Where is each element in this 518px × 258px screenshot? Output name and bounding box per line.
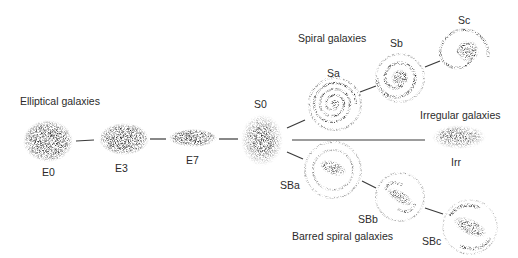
label-irr: Irr — [451, 156, 461, 168]
label-sba: SBa — [280, 179, 300, 191]
hubble-tuning-fork-diagram: Elliptical galaxies Spiral galaxies Irre… — [0, 0, 518, 258]
edge-sbb-sbc — [425, 208, 443, 214]
label-sc: Sc — [458, 14, 470, 26]
galaxy-sbb — [376, 173, 424, 221]
edge-s0-sba — [287, 152, 303, 159]
group-label-elliptical: Elliptical galaxies — [20, 95, 100, 107]
galaxy-s0 — [241, 114, 283, 166]
galaxy-e3 — [99, 123, 149, 155]
edge-sba-sbb — [362, 181, 376, 188]
label-e0: E0 — [42, 166, 55, 178]
edge-e0-e3 — [76, 140, 94, 141]
label-e7: E7 — [186, 154, 199, 166]
edge-s0-sa — [287, 120, 305, 128]
galaxy-sa — [309, 78, 361, 130]
group-label-spiral: Spiral galaxies — [298, 32, 366, 44]
galaxy-sbc — [443, 200, 497, 254]
edge-sa-sb — [360, 86, 376, 92]
label-e3: E3 — [115, 162, 128, 174]
galaxy-sc — [440, 30, 488, 68]
galaxy-irr — [432, 125, 486, 149]
label-sbb: SBb — [358, 213, 378, 225]
label-sa: Sa — [327, 67, 340, 79]
label-s0: S0 — [254, 98, 267, 110]
galaxy-e0 — [23, 120, 73, 162]
galaxy-sba — [305, 142, 361, 198]
galaxy-e7 — [169, 129, 217, 147]
label-sbc: SBc — [422, 235, 441, 247]
label-sb: Sb — [390, 37, 403, 49]
galaxy-sb — [376, 54, 424, 102]
edge-sb-sc — [425, 61, 440, 67]
group-label-barred: Barred spiral galaxies — [292, 230, 393, 242]
group-label-irregular: Irregular galaxies — [420, 109, 501, 121]
